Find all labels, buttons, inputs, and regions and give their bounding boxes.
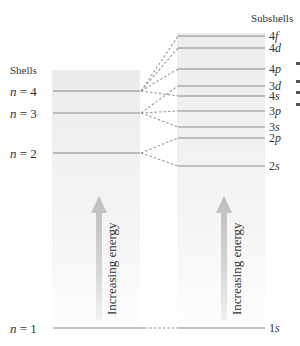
connector-n3-3p	[141, 111, 178, 113]
clipped-edge-text	[296, 62, 300, 106]
dashed-connectors	[141, 36, 178, 328]
energy-level-diagram: Increasing energy Increasing energy Shel…	[0, 0, 300, 346]
shell-label-n2: n = 2	[10, 146, 37, 161]
shells-header: Shells	[10, 64, 37, 76]
subshell-label-3p: 3p	[269, 104, 281, 118]
subshells-header: Subshells	[251, 12, 293, 24]
connector-n2-2s	[141, 153, 178, 166]
subshell-label-4d: 4d	[269, 41, 282, 55]
subshell-label-4p: 4p	[269, 62, 281, 76]
energy-label-right: Increasing energy	[229, 222, 244, 315]
subshell-label-2p: 2p	[269, 131, 281, 145]
connector-n4-4s	[141, 91, 178, 96]
energy-label-left: Increasing energy	[104, 222, 119, 315]
connector-n3-3s	[141, 113, 178, 127]
connector-n2-2p	[141, 138, 178, 153]
shell-label-n4: n = 4	[10, 84, 37, 99]
shell-label-n3: n = 3	[10, 106, 37, 121]
subshell-label-2s: 2s	[269, 159, 280, 173]
shell-label-n1: n = 1	[10, 321, 37, 336]
connector-n4-4f	[141, 36, 178, 91]
connector-n4-4p	[141, 69, 178, 91]
subshell-label-4s: 4s	[269, 89, 280, 103]
subshell-labels: 4f 4d 4p 3d 4s 3p 3s 2p 2s 1s	[269, 29, 282, 335]
subshell-label-1s: 1s	[269, 321, 280, 335]
shell-labels: n = 4 n = 3 n = 2 n = 1	[10, 84, 37, 336]
connector-n3-3d	[141, 86, 178, 113]
connector-n4-4d	[141, 48, 178, 91]
